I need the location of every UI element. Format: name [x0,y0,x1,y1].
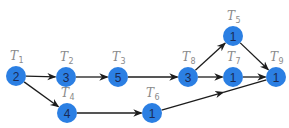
node-label: T9 [270,50,284,66]
edge-T5-T9 [240,43,268,70]
node-label: T1 [10,49,24,65]
node-value: 2 [13,70,20,84]
node-label: T7 [227,50,241,66]
node-t5: 1T5 [223,9,243,46]
node-label: T5 [227,9,241,25]
node-t6: 1T6 [142,86,162,123]
edge-T8-T5 [195,43,225,70]
node-value: 3 [63,71,70,85]
node-t8: 3T8 [178,50,198,87]
edge-T1-T2 [26,76,56,77]
node-t1: 2T1 [6,49,26,86]
node-value: 1 [230,71,237,85]
node-value: 1 [273,71,280,85]
node-value: 3 [185,71,192,85]
nodes-layer: 2T13T25T34T41T51T61T73T81T9 [6,9,286,123]
node-t4: 4T4 [57,86,77,123]
node-value: 1 [149,107,156,121]
node-label: T2 [60,50,74,66]
node-label: T6 [146,86,160,102]
node-t2: 3T2 [56,50,76,87]
task-graph: 2T13T25T34T41T51T61T73T81T9 [0,0,289,128]
node-label: T4 [61,86,75,102]
edge-T6-T9 [162,92,224,110]
node-label: T8 [182,50,196,66]
node-value: 1 [230,30,237,44]
edge-T1-T4 [24,82,58,107]
node-value: 4 [64,107,71,121]
node-t7: 1T7 [223,50,243,87]
node-value: 5 [115,71,122,85]
node-t9: 1T9 [266,50,286,87]
node-label: T3 [112,50,126,66]
node-t3: 5T3 [108,50,128,87]
